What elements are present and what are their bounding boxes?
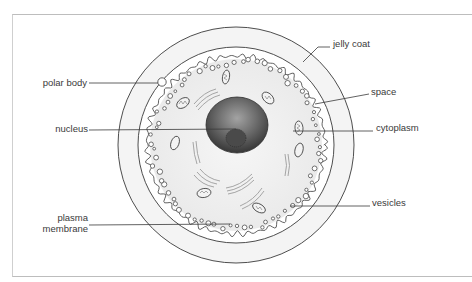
label-vesicles: vesicles: [372, 197, 406, 208]
nucleolus: [226, 129, 246, 147]
label-nucleus: nucleus: [55, 123, 88, 134]
label-cytoplasm: cytoplasm: [376, 122, 419, 133]
label-space: space: [371, 86, 396, 97]
label-plasma-membrane-line1: plasma: [43, 212, 88, 223]
label-plasma-membrane-line2: membrane: [43, 223, 88, 234]
label-plasma-membrane: plasma membrane: [43, 212, 88, 234]
polar-body: [158, 78, 166, 86]
label-polar-body: polar body: [43, 77, 87, 88]
label-jelly-coat: jelly coat: [333, 38, 370, 49]
